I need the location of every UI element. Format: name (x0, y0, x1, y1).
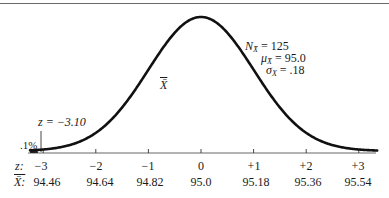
xbar-tick-label: 94.46 (34, 176, 61, 188)
chart-svg (0, 0, 389, 198)
z-tick-label: −3 (35, 160, 48, 172)
normal-curve (30, 17, 377, 151)
tail-percent-annotation: .1% (20, 139, 37, 151)
z-tick-label: 0 (198, 160, 204, 172)
xbar-tick-label: 95.18 (243, 176, 270, 188)
cutoff-annotation: z = −3.10 (38, 116, 86, 128)
z-tick-label: −2 (90, 160, 103, 172)
xbar-tick-label: 94.64 (87, 176, 114, 188)
z-tick-label: +3 (352, 160, 365, 172)
chart-figure: X̄ NX̄ = 125 μX̄ = 95.0 σX = .18 z = −3.… (0, 0, 389, 198)
param-sigma-sub: X (272, 69, 277, 78)
xbar-tick-label: 95.36 (295, 176, 322, 188)
z-tick-label: +1 (248, 160, 261, 172)
xbar-axis-label: X̄: (14, 176, 25, 188)
param-n-symbol: N (245, 39, 253, 53)
z-tick-label: −1 (142, 160, 155, 172)
param-sigma: σX = .18 (266, 64, 305, 78)
xbar-tick-label: 95.54 (345, 176, 372, 188)
xbar-tick-label: 95.0 (191, 176, 212, 188)
param-sigma-value: .18 (290, 63, 305, 77)
param-n-sub: X̄ (253, 45, 258, 54)
xbar-tick-label: 94.82 (137, 176, 164, 188)
axis-ticks (43, 149, 359, 153)
z-tick-label: +2 (300, 160, 313, 172)
curve-label: X̄ (160, 79, 167, 91)
z-axis-label: z: (15, 160, 24, 172)
